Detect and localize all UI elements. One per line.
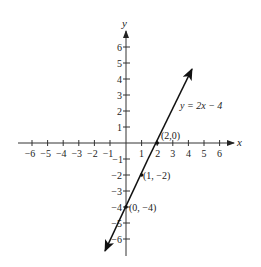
svg-text:5: 5 [202, 148, 207, 159]
equation-label: y = 2x − 4 [179, 100, 222, 111]
line-y-equals-2x-minus-4 [148, 69, 192, 159]
svg-text:−3: −3 [71, 148, 82, 159]
svg-text:3: 3 [117, 90, 122, 101]
y-axis-label: y [121, 17, 127, 29]
svg-text:5: 5 [117, 58, 122, 69]
svg-text:−3: −3 [111, 186, 122, 197]
svg-text:−2: −2 [87, 148, 98, 159]
svg-text:−4: −4 [56, 148, 67, 159]
x-axis-label: x [236, 136, 242, 148]
coordinate-plane-chart: x y −6 −5 −4 −3 −2 −1 1 2 3 4 5 6 [0, 0, 261, 267]
svg-text:1: 1 [139, 148, 144, 159]
svg-text:2: 2 [155, 148, 160, 159]
svg-text:−5: −5 [40, 148, 51, 159]
svg-text:−4: −4 [111, 202, 122, 213]
point-2-0 [155, 141, 159, 145]
point-0-neg4 [124, 205, 128, 209]
svg-text:−6: −6 [25, 148, 36, 159]
chart-svg: x y −6 −5 −4 −3 −2 −1 1 2 3 4 5 6 [0, 0, 261, 267]
svg-text:1: 1 [117, 122, 122, 133]
point-label-1-neg2: (1, −2) [143, 170, 170, 182]
svg-text:2: 2 [117, 106, 122, 117]
svg-text:4: 4 [186, 148, 191, 159]
point-label-2-0: (2,0) [161, 130, 180, 142]
svg-text:−2: −2 [111, 170, 122, 181]
svg-text:6: 6 [217, 148, 222, 159]
point-label-0-neg4: (0, −4) [129, 202, 156, 214]
svg-text:6: 6 [117, 42, 122, 53]
svg-text:3: 3 [170, 148, 175, 159]
x-tick-labels: −6 −5 −4 −3 −2 −1 1 2 3 4 5 6 [25, 148, 222, 159]
svg-text:−1: −1 [112, 154, 123, 165]
svg-text:4: 4 [117, 74, 122, 85]
